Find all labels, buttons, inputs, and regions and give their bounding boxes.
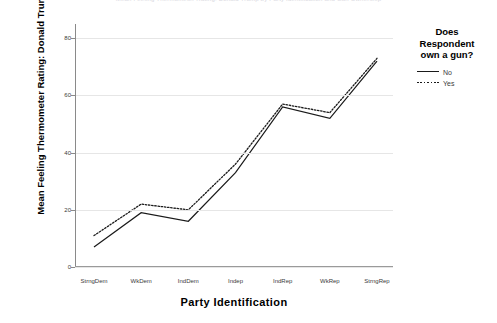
- y-tick-label-20: 20: [49, 207, 71, 213]
- y-tick-mark-0: [71, 267, 75, 268]
- y-axis-title-wrapper: Mean Feeling Thermometer Rating: Donald …: [0, 0, 44, 290]
- gridline-20: [75, 210, 393, 211]
- legend-swatch-no-icon: [417, 69, 439, 75]
- x-axis-line: [75, 266, 393, 267]
- legend-swatch-yes-icon: [417, 80, 439, 86]
- legend-item-no[interactable]: No: [417, 67, 495, 78]
- legend-item-yes[interactable]: Yes: [417, 78, 495, 89]
- legend-title-line-2: Respondent: [399, 38, 495, 50]
- legend: Does Respondent own a gun? NoYes: [399, 26, 495, 89]
- y-axis-title: Mean Feeling Thermometer Rating: Donald …: [35, 0, 47, 221]
- x-tick-label-indrep: IndRep: [273, 278, 292, 284]
- x-axis-tick-labels: StrngDemWkDemIndDemIndepIndRepWkRepStrng…: [75, 278, 393, 290]
- legend-title-line-1: Does: [399, 26, 495, 38]
- gridline-0: [75, 267, 393, 268]
- legend-line-glyph: [417, 82, 439, 83]
- x-tick-label-indep: Indep: [228, 278, 243, 284]
- x-tick-label-inddem: IndDem: [178, 278, 199, 284]
- plot-area: [75, 24, 393, 267]
- x-tick-label-strngrep: StrngRep: [364, 278, 389, 284]
- legend-title: Does Respondent own a gun?: [399, 26, 495, 61]
- y-tick-label-0: 0: [49, 264, 71, 270]
- chart-title: Mean Feeling Thermometer Rating: Donald …: [0, 0, 497, 4]
- y-tick-label-60: 60: [49, 92, 71, 98]
- legend-label: Yes: [443, 80, 454, 87]
- gridline-40: [75, 153, 393, 154]
- x-tick-label-strngdem: StrngDem: [80, 278, 107, 284]
- legend-items: NoYes: [399, 67, 495, 89]
- y-tick-label-80: 80: [49, 35, 71, 41]
- legend-title-line-3: own a gun?: [399, 49, 495, 61]
- x-tick-label-wkrep: WkRep: [320, 278, 340, 284]
- legend-line-glyph: [417, 71, 439, 72]
- y-axis-line: [75, 24, 76, 267]
- legend-label: No: [443, 69, 452, 76]
- y-tick-label-40: 40: [49, 150, 71, 156]
- x-tick-label-wkdem: WkDem: [130, 278, 151, 284]
- chart-screenshot: Mean Feeling Thermometer Rating: Donald …: [0, 0, 497, 323]
- gridline-80: [75, 38, 393, 39]
- plot-gridlines: [75, 24, 393, 267]
- y-axis-tick-labels: 020406080: [49, 24, 71, 267]
- x-axis-title: Party Identification: [75, 296, 393, 308]
- gridline-60: [75, 95, 393, 96]
